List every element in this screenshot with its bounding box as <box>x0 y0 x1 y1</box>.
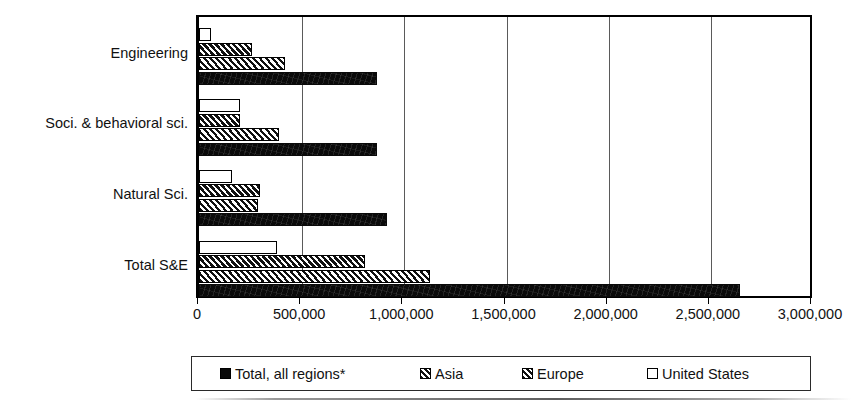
legend-swatch-icon <box>522 368 533 379</box>
bar <box>199 57 285 70</box>
bar <box>199 143 377 156</box>
bar <box>199 128 279 141</box>
x-axis-tick <box>708 298 709 304</box>
x-axis-tick-label: 1,000,000 <box>369 306 434 322</box>
legend-label: Total, all regions* <box>235 366 345 382</box>
bar <box>199 43 252 56</box>
legend-item-1[interactable]: Total, all regions* <box>220 366 345 382</box>
chart-legend: Total, all regions*AsiaEuropeUnited Stat… <box>191 356 811 391</box>
bar <box>199 199 258 212</box>
x-axis-tick <box>606 298 607 304</box>
x-axis-tick <box>299 298 300 304</box>
x-axis-tick <box>197 298 198 304</box>
bar-chart-figure: EngineeringSoci. & behavioral sci.Natura… <box>0 0 856 404</box>
legend-item-4[interactable]: United States <box>647 366 749 382</box>
bar-group <box>199 17 810 88</box>
bar <box>199 241 277 254</box>
bar <box>199 170 232 183</box>
legend-label: Europe <box>537 366 584 382</box>
bar <box>199 72 377 85</box>
bar <box>199 213 387 226</box>
legend-swatch-icon <box>220 368 231 379</box>
x-axis-tick-label: 3,000,000 <box>778 306 843 322</box>
legend-item-3[interactable]: Europe <box>522 366 584 382</box>
bar <box>199 255 365 268</box>
legend-item-2[interactable]: Asia <box>420 366 463 382</box>
bar <box>199 28 211 41</box>
legend-label: Asia <box>435 366 463 382</box>
plot-area <box>196 15 812 298</box>
x-axis-tick-label: 2,000,000 <box>573 306 638 322</box>
x-axis-tick-label: 0 <box>193 306 201 322</box>
bar <box>199 99 240 112</box>
bar-group <box>199 229 810 300</box>
y-axis-label-2: Soci. & behavioral sci. <box>0 115 188 131</box>
bar <box>199 184 260 197</box>
x-axis-tick <box>504 298 505 304</box>
bar <box>199 284 740 297</box>
x-axis-tick-label: 500,000 <box>273 306 325 322</box>
y-axis-label-4: Total S&E <box>0 257 188 273</box>
legend-swatch-icon <box>420 368 431 379</box>
bar <box>199 270 430 283</box>
x-axis-tick <box>810 298 811 304</box>
x-axis-tick <box>401 298 402 304</box>
x-axis-tick-label: 2,500,000 <box>676 306 741 322</box>
y-axis-label-3: Natural Sci. <box>0 186 188 202</box>
legend-swatch-icon <box>647 368 658 379</box>
x-axis-tick-label: 1,500,000 <box>471 306 536 322</box>
legend-label: United States <box>662 366 749 382</box>
bar-group <box>199 88 810 159</box>
scan-artifact-line <box>196 398 851 400</box>
bar-group <box>199 159 810 230</box>
bar <box>199 114 240 127</box>
y-axis-label-1: Engineering <box>0 45 188 61</box>
